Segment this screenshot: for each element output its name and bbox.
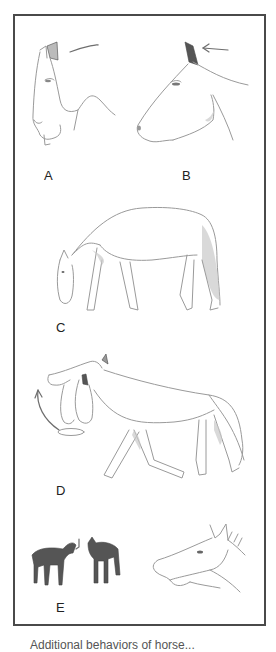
panel-d-head-swinging-horse-illustration bbox=[34, 350, 249, 485]
panel-label-a: A bbox=[44, 168, 53, 183]
panel-label-d: D bbox=[56, 483, 65, 498]
panel-e-foal-head-illustration bbox=[150, 520, 250, 600]
panel-b-horse-head-illustration bbox=[133, 40, 248, 155]
panel-a-horse-head-illustration bbox=[30, 40, 120, 160]
figure-caption: Additional behaviors of horse... bbox=[30, 638, 195, 652]
panel-label-b: B bbox=[182, 168, 191, 183]
panel-label-e: E bbox=[56, 600, 65, 615]
panel-label-c: C bbox=[56, 320, 65, 335]
panel-e-two-horses-illustration bbox=[28, 535, 123, 590]
panel-c-grazing-horse-illustration bbox=[52, 200, 232, 315]
